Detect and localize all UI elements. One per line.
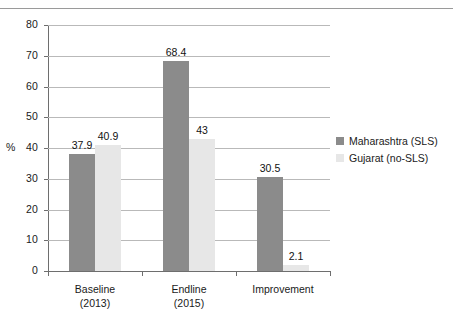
x-category-label: Improvement xyxy=(216,282,350,296)
y-tick-label: 80 xyxy=(0,18,38,30)
y-tick-mark xyxy=(44,240,48,241)
bar-value-label: 40.9 xyxy=(86,130,130,142)
y-tick-mark xyxy=(44,148,48,149)
bar xyxy=(163,61,189,271)
bar-value-label: 68.4 xyxy=(154,46,198,58)
y-tick-mark xyxy=(44,56,48,57)
gridline xyxy=(48,271,330,272)
bar xyxy=(95,145,121,271)
legend-swatch-icon xyxy=(336,137,344,145)
gridline xyxy=(48,87,330,88)
y-tick-label: 10 xyxy=(0,233,38,245)
y-tick-label: 20 xyxy=(0,203,38,215)
y-tick-mark xyxy=(44,25,48,26)
y-tick-mark xyxy=(44,179,48,180)
x-tick-mark xyxy=(330,271,331,276)
x-tick-mark xyxy=(236,271,237,276)
bar-value-label: 30.5 xyxy=(248,162,292,174)
y-tick-label: 40 xyxy=(0,141,38,153)
y-tick-label: 50 xyxy=(0,110,38,122)
x-category-label-line: (2015) xyxy=(122,296,256,310)
bar xyxy=(283,265,309,271)
y-tick-mark xyxy=(44,87,48,88)
bar xyxy=(189,139,215,271)
bar xyxy=(69,154,95,271)
legend-item[interactable]: Maharashtra (SLS) xyxy=(336,132,438,149)
x-tick-mark xyxy=(48,271,49,276)
figure-top-rule xyxy=(0,8,453,9)
chart-figure: % 01020304050607080 37.968.430.540.9432.… xyxy=(0,0,453,320)
legend-swatch-icon xyxy=(336,154,344,162)
gridline xyxy=(48,25,330,26)
legend-item-label: Gujarat (no-SLS) xyxy=(349,152,428,164)
y-tick-label: 30 xyxy=(0,172,38,184)
bar-value-label: 2.1 xyxy=(274,250,318,262)
legend-item-label: Maharashtra (SLS) xyxy=(349,135,438,147)
y-tick-mark xyxy=(44,117,48,118)
y-tick-mark xyxy=(44,210,48,211)
bar-value-label: 43 xyxy=(180,124,224,136)
y-tick-label: 60 xyxy=(0,80,38,92)
plot-area: 37.968.430.540.9432.1 xyxy=(48,25,330,271)
legend-item[interactable]: Gujarat (no-SLS) xyxy=(336,149,438,166)
y-tick-label: 0 xyxy=(0,264,38,276)
x-category-label-line: Improvement xyxy=(216,282,350,296)
chart-legend: Maharashtra (SLS)Gujarat (no-SLS) xyxy=(336,132,438,166)
y-tick-label: 70 xyxy=(0,49,38,61)
gridline xyxy=(48,117,330,118)
x-tick-mark xyxy=(142,271,143,276)
